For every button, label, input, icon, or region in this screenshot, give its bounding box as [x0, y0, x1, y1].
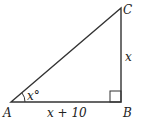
angle-label-a: x°: [27, 89, 40, 103]
vertex-label-c: C: [123, 3, 132, 17]
side-label-bc: x: [125, 50, 132, 64]
vertex-label-b: B: [122, 106, 132, 120]
angle-arc-a: [22, 93, 25, 102]
vertex-label-a: A: [2, 106, 12, 120]
triangle-diagram: C x x° A x + 10 B: [0, 0, 141, 126]
triangle-abc: [11, 8, 121, 102]
right-angle-marker: [110, 91, 121, 102]
side-label-ab: x + 10: [47, 106, 87, 120]
